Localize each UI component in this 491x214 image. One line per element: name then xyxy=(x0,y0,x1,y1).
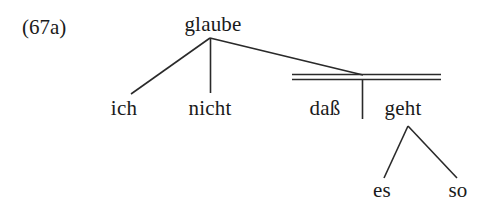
edge-glaube-ich xyxy=(131,38,210,94)
node-label-es: es xyxy=(373,180,391,201)
node-label-geht: geht xyxy=(385,98,422,119)
linguistic-tree-figure: (67a) glaube ich nicht daß geht es so xyxy=(0,0,491,214)
node-label-glaube: glaube xyxy=(184,14,241,35)
node-label-so: so xyxy=(448,180,467,201)
node-label-dass: daß xyxy=(310,98,341,119)
edge-glaube-embedded-clause xyxy=(210,38,363,75)
node-label-ich: ich xyxy=(111,98,137,119)
example-number-label: (67a) xyxy=(22,17,66,38)
node-label-nicht: nicht xyxy=(189,98,232,119)
edge-geht-so xyxy=(408,126,457,178)
edge-geht-es xyxy=(384,126,408,178)
